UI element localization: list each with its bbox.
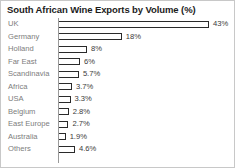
bar-shape [59,46,87,53]
bar [59,108,69,115]
bar [59,46,87,53]
chart-container: South African Wine Exports by Volume (%)… [0,0,235,168]
value-label: 43% [213,18,228,31]
bar-row: USA3.3% [1,93,235,106]
bar-shape [59,33,122,40]
bar-shape [59,108,69,115]
bar-shape [59,71,79,78]
category-label: UK [8,18,19,31]
value-label: 3.3% [75,93,92,106]
value-label: 8% [91,43,102,56]
value-label: 5.7% [83,68,100,81]
bar-row: Holland8% [1,43,235,56]
bar [59,21,209,28]
category-label: Far East [8,56,37,69]
bar-shape [59,133,66,140]
value-label: 4.6% [79,143,96,156]
value-label: 18% [126,31,141,44]
bar-row: Belgium2.8% [1,106,235,119]
bar-row: Africa3.7% [1,81,235,94]
value-label: 2.8% [73,106,90,119]
category-label: Others [8,143,31,156]
bar [59,58,80,65]
bar-shape [59,146,75,153]
category-label: USA [8,93,24,106]
category-label: Africa [8,81,27,94]
value-label: 2.7% [72,118,89,131]
bar-row: Scandinavia5.7% [1,68,235,81]
value-label: 3.7% [76,81,93,94]
plot-area: UK43%Germany18%Holland8%Far East6%Scandi… [1,18,235,167]
bar [59,83,72,90]
chart-title: South African Wine Exports by Volume (%) [7,4,196,15]
category-label: Belgium [8,106,35,119]
bar-row: East Europe2.7% [1,118,235,131]
bar [59,133,66,140]
bar-row: Australia1.9% [1,131,235,144]
bar-shape [59,58,80,65]
bar [59,96,71,103]
category-label: Germany [8,31,39,44]
category-label: Holland [8,43,34,56]
bar [59,33,122,40]
bar-row: Others4.6% [1,143,235,156]
category-label: Scandinavia [8,68,49,81]
bar [59,71,79,78]
value-label: 6% [84,56,95,69]
bar-row: Germany18% [1,31,235,44]
value-label: 1.9% [70,131,87,144]
bar [59,146,75,153]
bar-row: UK43% [1,18,235,31]
bar-shape [59,21,209,28]
bar-shape [59,83,72,90]
bar-shape [59,121,68,128]
category-label: Australia [8,131,38,144]
bar-row: Far East6% [1,56,235,69]
category-label: East Europe [8,118,50,131]
bar [59,121,68,128]
bar-shape [59,96,71,103]
